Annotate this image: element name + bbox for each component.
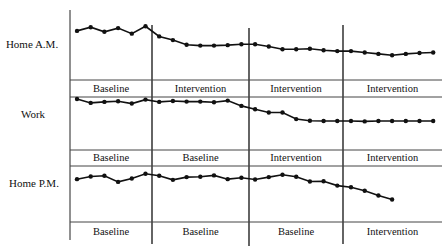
data-point <box>431 119 435 123</box>
series-line-home-a-m <box>77 26 433 55</box>
data-point <box>363 119 367 123</box>
data-point <box>376 52 380 56</box>
multiple-baseline-chart: Home A.M.BaselineInterventionInterventio… <box>0 0 446 252</box>
data-point <box>75 177 79 181</box>
data-point <box>267 110 271 114</box>
phase-label: Intervention <box>270 83 322 94</box>
data-point <box>294 117 298 121</box>
data-point <box>308 47 312 51</box>
phase-label: Intervention <box>367 152 419 163</box>
data-point <box>130 176 134 180</box>
data-point <box>102 30 106 34</box>
phase-label: Intervention <box>367 226 419 237</box>
data-point <box>184 175 188 179</box>
data-point <box>102 100 106 104</box>
data-point <box>239 104 243 108</box>
data-point <box>280 173 284 177</box>
data-point <box>157 174 161 178</box>
data-point <box>390 119 394 123</box>
data-point <box>294 175 298 179</box>
data-point <box>116 180 120 184</box>
data-point <box>294 47 298 51</box>
data-point <box>226 98 230 102</box>
data-point <box>157 100 161 104</box>
data-point <box>130 31 134 35</box>
data-point <box>404 52 408 56</box>
data-point <box>308 119 312 123</box>
data-point <box>321 48 325 52</box>
data-point <box>212 173 216 177</box>
data-point <box>363 50 367 54</box>
row-label: Home P.M. <box>9 177 59 189</box>
data-point <box>198 175 202 179</box>
data-point <box>130 101 134 105</box>
data-point <box>363 189 367 193</box>
data-point <box>212 43 216 47</box>
data-point <box>253 42 257 46</box>
data-point <box>267 44 271 48</box>
data-point <box>253 107 257 111</box>
phase-label: Intervention <box>367 83 419 94</box>
data-point <box>267 175 271 179</box>
data-point <box>335 183 339 187</box>
data-point <box>349 49 353 53</box>
phase-label: Baseline <box>93 83 129 94</box>
data-point <box>335 119 339 123</box>
data-point <box>75 29 79 33</box>
row-label: Home A.M. <box>6 38 59 50</box>
phase-label: Baseline <box>182 152 218 163</box>
data-point <box>171 99 175 103</box>
data-point <box>431 50 435 54</box>
data-point <box>321 179 325 183</box>
data-point <box>89 174 93 178</box>
data-point <box>171 38 175 42</box>
data-point <box>143 24 147 28</box>
data-point <box>226 43 230 47</box>
data-point <box>308 179 312 183</box>
data-point <box>226 177 230 181</box>
data-point <box>417 51 421 55</box>
data-point <box>280 110 284 114</box>
phase-label: Baseline <box>93 226 129 237</box>
row-label: Work <box>21 108 46 120</box>
phase-label: Baseline <box>93 152 129 163</box>
data-point <box>184 99 188 103</box>
data-point <box>239 42 243 46</box>
data-point <box>212 100 216 104</box>
phase-label: Baseline <box>278 226 314 237</box>
data-point <box>321 119 325 123</box>
data-point <box>198 43 202 47</box>
data-point <box>239 176 243 180</box>
data-point <box>102 174 106 178</box>
data-point <box>75 97 79 101</box>
data-point <box>89 101 93 105</box>
data-point <box>376 193 380 197</box>
data-point <box>157 34 161 38</box>
data-point <box>280 47 284 51</box>
data-point <box>390 53 394 57</box>
data-point <box>390 197 394 201</box>
data-point <box>143 172 147 176</box>
data-point <box>417 119 421 123</box>
data-point <box>184 42 188 46</box>
data-point <box>404 119 408 123</box>
series-line-home-p-m <box>77 174 392 200</box>
data-point <box>335 49 339 53</box>
data-point <box>89 25 93 29</box>
data-point <box>171 178 175 182</box>
phase-label: Baseline <box>182 226 218 237</box>
data-point <box>198 99 202 103</box>
phase-label: Intervention <box>175 83 227 94</box>
data-point <box>376 119 380 123</box>
data-point <box>349 185 353 189</box>
phase-label: Intervention <box>270 152 322 163</box>
data-point <box>116 99 120 103</box>
data-point <box>349 119 353 123</box>
data-point <box>253 177 257 181</box>
data-point <box>143 97 147 101</box>
data-point <box>116 26 120 30</box>
